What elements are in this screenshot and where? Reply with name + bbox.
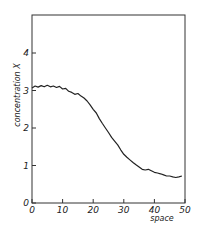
x-tick-label: 10: [57, 205, 69, 215]
concentration-curve: [32, 85, 182, 177]
y-tick-label: 1: [23, 161, 29, 171]
x-tick-label: 0: [29, 205, 35, 215]
x-tick-label: 30: [118, 205, 130, 215]
x-tick-label: 20: [87, 205, 99, 215]
x-axis-label: space: [150, 214, 174, 223]
y-axis-label: concentration X: [13, 63, 22, 127]
y-tick-label: 3: [23, 86, 29, 96]
y-tick-label: 2: [23, 123, 29, 133]
concentration-chart: 01234 01020304050 concentration X space: [0, 0, 200, 233]
x-tick-label: 50: [179, 205, 191, 215]
y-tick-label: 4: [23, 48, 29, 58]
x-axis-ticks: 01020304050: [29, 199, 191, 215]
y-axis-ticks: 01234: [23, 48, 36, 208]
